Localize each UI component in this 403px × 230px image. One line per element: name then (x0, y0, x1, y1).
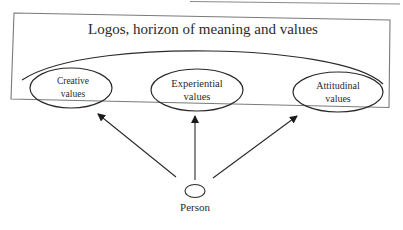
experiential-values-ellipse (151, 69, 243, 111)
creative-values-line1: Creative (57, 76, 89, 86)
page-edge-line (190, 2, 400, 5)
node-experiential-values: Experiential values (151, 69, 243, 111)
diagram-canvas: Logos, horizon of meaning and values Cre… (0, 0, 403, 230)
arrow-to-creative (98, 114, 176, 177)
creative-values-line2: values (61, 89, 86, 99)
node-creative-values: Creative values (30, 68, 112, 108)
creative-values-ellipse (30, 68, 112, 108)
experiential-values-line2: values (184, 91, 211, 102)
person-ellipse (185, 185, 205, 198)
experiential-values-line1: Experiential (171, 78, 222, 89)
node-person: Person (180, 185, 210, 214)
attitudinal-values-line2: values (325, 93, 351, 104)
attitudinal-values-line1: Attitudinal (316, 80, 360, 91)
diagram-title: Logos, horizon of meaning and values (88, 21, 318, 37)
person-label: Person (180, 201, 210, 213)
arrow-to-attitudinal (213, 116, 297, 178)
